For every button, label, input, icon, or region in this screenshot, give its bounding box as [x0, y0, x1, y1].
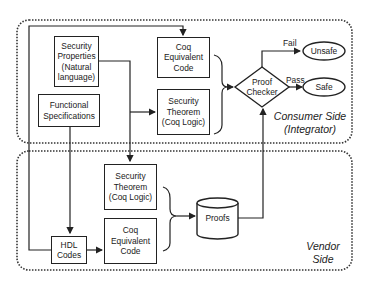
fail-edge-label: Fail	[283, 38, 297, 48]
fail-edge-line	[262, 51, 300, 67]
line: Security	[115, 171, 145, 182]
secprop-connector-line	[99, 61, 130, 161]
line: HDL	[61, 240, 78, 251]
unsafe-label: Unsafe	[303, 44, 345, 58]
vendor-coq-code-label: Coq Equivalent Code	[104, 218, 157, 264]
functional-specifications-label: Functional Specifications	[38, 94, 100, 127]
proofs-to-checker-line	[238, 109, 263, 218]
line: (Coq Logic)	[162, 117, 205, 128]
line: (Coq Logic)	[109, 192, 152, 203]
line: Functional	[50, 100, 89, 111]
line: Specifications	[43, 111, 95, 122]
line: Code	[173, 63, 193, 74]
line: Theorem	[167, 107, 201, 118]
line: Equivalent	[164, 52, 203, 63]
line: Side	[298, 253, 348, 266]
hdl-codes-label: HDL Codes	[51, 236, 87, 264]
line: Vendor	[298, 240, 348, 253]
line: language)	[58, 72, 95, 83]
consumer-side-label: Consumer Side (Integrator)	[268, 110, 352, 136]
line: Codes	[57, 250, 81, 261]
line: Code	[120, 246, 140, 257]
consumer-security-theorem-label: Security Theorem (Coq Logic)	[157, 89, 210, 135]
line: Equivalent	[111, 236, 150, 247]
line: Theorem	[114, 182, 148, 193]
line: Checker	[246, 87, 277, 98]
line: Coq	[176, 42, 191, 53]
pass-edge-label: Pass	[286, 75, 305, 85]
consumer-brace	[214, 55, 228, 134]
line: Properties	[57, 51, 95, 62]
proof-checker-label: Proof Checker	[235, 72, 289, 102]
proofs-label: Proofs	[197, 210, 238, 226]
line: Security	[168, 96, 198, 107]
line: (Integrator)	[268, 123, 352, 136]
line: Coq	[123, 225, 138, 236]
line: Proof	[252, 77, 272, 88]
consumer-coq-code-label: Coq Equivalent Code	[157, 37, 210, 78]
line: (Natural	[62, 62, 92, 73]
vendor-security-theorem-label: Security Theorem (Coq Logic)	[104, 164, 157, 210]
vendor-side-label: Vendor Side	[298, 240, 348, 266]
line: Security	[61, 41, 91, 52]
security-properties-label: Security Properties (Natural language)	[54, 36, 99, 87]
safe-label: Safe	[303, 80, 345, 94]
line: Consumer Side	[268, 110, 352, 123]
vendor-brace	[163, 187, 177, 251]
proofs-cylinder-top	[197, 198, 238, 208]
